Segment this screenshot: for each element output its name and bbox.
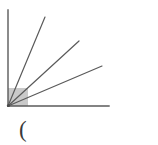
figure-background bbox=[0, 0, 158, 145]
vertex-point bbox=[7, 104, 10, 107]
angle-rays-diagram bbox=[0, 0, 158, 145]
angle-figure-container: ( bbox=[0, 0, 158, 145]
